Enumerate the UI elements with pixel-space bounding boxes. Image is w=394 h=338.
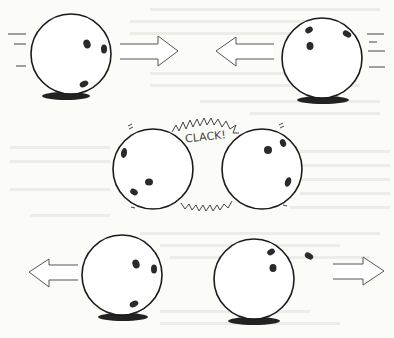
arrow-left-icon: [29, 259, 78, 287]
illustration-canvas: CLACK!: [0, 0, 394, 338]
arrow-left-icon: [216, 37, 274, 66]
arrow-right-icon: [333, 257, 384, 285]
ball-middle-left: [113, 124, 193, 209]
arrow-right-icon: [120, 36, 178, 66]
sound-effect-text: CLACK!: [185, 128, 227, 145]
ball-bottom-left: [82, 235, 162, 321]
ball-top-left: [8, 14, 111, 100]
ball-middle-right: [222, 123, 302, 209]
ball-top-right: [282, 18, 385, 104]
collision-illustration: CLACK!: [0, 0, 394, 338]
